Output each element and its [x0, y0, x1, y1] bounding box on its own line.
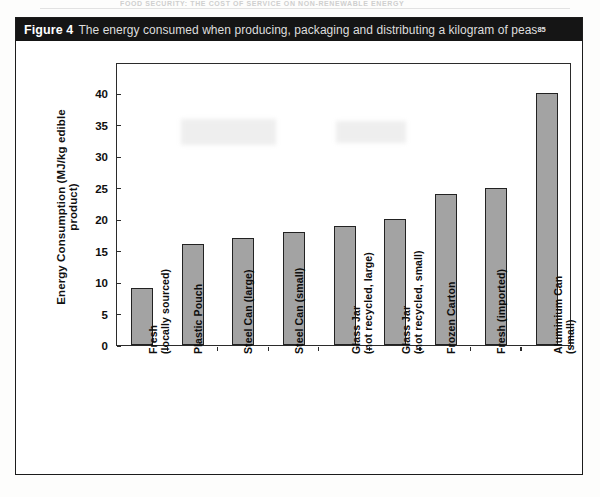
- figure-container: Figure 4 The energy consumed when produc…: [15, 17, 583, 475]
- x-axis-tick-label: Plastic Pouch: [192, 284, 204, 354]
- y-axis-tick-label: 20: [86, 214, 108, 226]
- y-axis-tick-label: 35: [86, 120, 108, 132]
- y-axis-tick-label: 30: [86, 151, 108, 163]
- x-axis-tick-label: Steel Can (small): [293, 268, 305, 354]
- chart-area: Energy Consumption (MJ/kg edible product…: [16, 41, 582, 476]
- x-axis-tick-label: Steel Can (large): [242, 269, 254, 354]
- y-axis-tick-label: 25: [86, 183, 108, 195]
- x-axis-tick-label: Fresh (imported): [495, 269, 507, 354]
- x-axis-tick-label: Fresh(locally sourced): [147, 269, 171, 354]
- y-axis-tick-label: 0: [86, 340, 108, 352]
- y-axis-title: Energy Consumption (MJ/kg edible product…: [55, 87, 79, 327]
- y-axis-tick-label: 10: [86, 277, 108, 289]
- x-axis-tick-mark: [470, 347, 471, 351]
- y-axis-tick-label: 15: [86, 246, 108, 258]
- x-axis-tick-mark: [217, 347, 218, 351]
- x-axis-tick-label: Glass Jar(not recycled, small): [400, 250, 424, 354]
- y-axis-tick-label: 40: [86, 88, 108, 100]
- figure-reference-superscript: 85: [537, 25, 545, 34]
- x-axis-tick-label: Glass Jar(not recycled, large): [350, 252, 374, 354]
- y-axis-tick-label: 5: [86, 309, 108, 321]
- figure-caption-bar: Figure 4 The energy consumed when produc…: [16, 18, 582, 41]
- x-axis-tick-mark: [268, 347, 269, 351]
- figure-number: Figure 4: [24, 23, 73, 37]
- running-head: FOOD SECURITY: THE COST OF SERVICE ON NO…: [120, 0, 520, 9]
- x-axis-tick-label: Frozen Carton: [445, 282, 457, 354]
- figure-caption-text: The energy consumed when producing, pack…: [78, 23, 537, 37]
- x-axis-tick-mark: [520, 347, 521, 351]
- x-axis-tick-mark: [318, 347, 319, 351]
- x-axis-tick-label: Aluminium Can(small): [552, 276, 576, 354]
- figure-page: FOOD SECURITY: THE COST OF SERVICE ON NO…: [0, 0, 600, 497]
